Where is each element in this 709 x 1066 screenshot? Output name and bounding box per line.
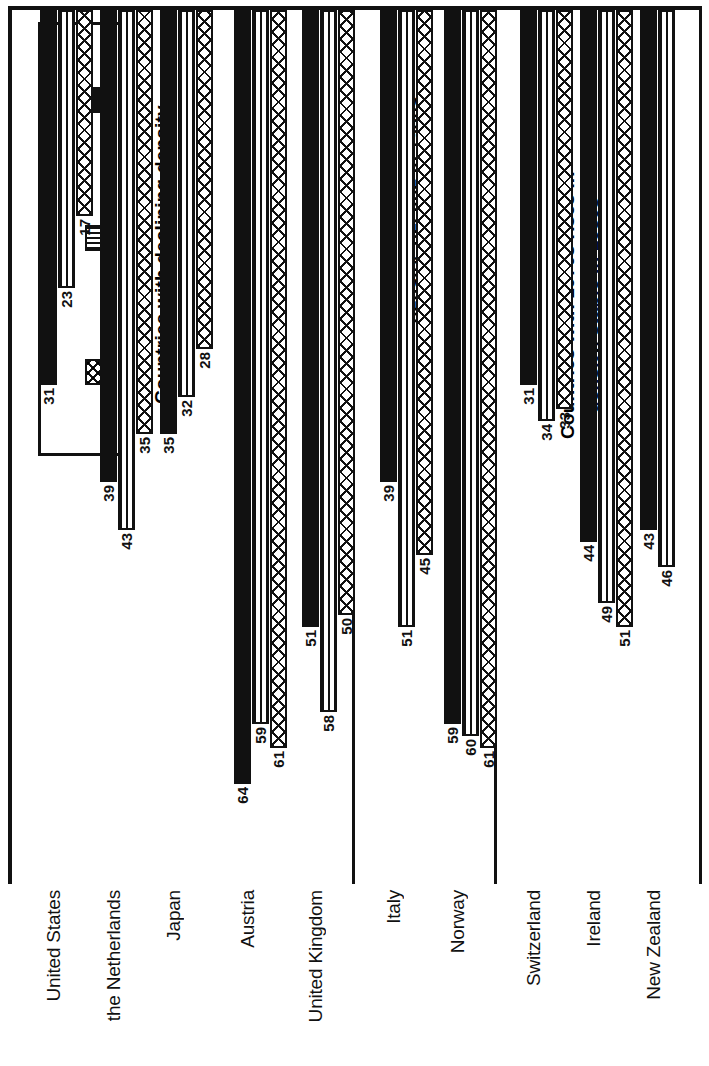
bar-1970 (640, 10, 657, 530)
bar-value-label: 43 (641, 533, 656, 550)
bar-value-label: 59 (445, 727, 460, 744)
bar-1970 (40, 10, 57, 385)
category-label: United States (44, 890, 63, 1001)
bar-1970 (520, 10, 537, 385)
bar-value-label: 45 (417, 558, 432, 575)
bar-value-label: 35 (137, 437, 152, 454)
bar-1979 (538, 10, 555, 421)
bar-value-label: 61 (481, 751, 496, 768)
bar-1986-87 (480, 10, 497, 748)
bar-value-label: 58 (321, 715, 336, 732)
bar-value-label: 61 (271, 751, 286, 768)
bar-value-label: 32 (179, 400, 194, 417)
category-label: Austria (238, 890, 257, 948)
bar-value-label: 51 (617, 630, 632, 647)
bar-value-label: 43 (119, 533, 134, 550)
bar-value-label: 51 (303, 630, 318, 647)
category-label: Switzerland (524, 890, 543, 986)
bar-1979 (398, 10, 415, 627)
bar-1970 (444, 10, 461, 724)
bar-1986-87 (196, 10, 213, 349)
bar-1979 (58, 10, 75, 288)
bar-1986-87 (416, 10, 433, 555)
category-label: Japan (164, 890, 183, 941)
frame-right-rule (699, 6, 702, 884)
bar-1970 (100, 10, 117, 482)
bar-value-label: 17 (77, 219, 92, 236)
bar-1979 (178, 10, 195, 397)
bar-1970 (580, 10, 597, 542)
bar-value-label: 60 (463, 739, 478, 756)
bar-1986-87 (556, 10, 573, 409)
bar-value-label: 23 (59, 291, 74, 308)
bar-value-label: 44 (581, 545, 596, 562)
bar-1970 (302, 10, 319, 627)
bar-value-label: 28 (197, 352, 212, 369)
bar-1979 (598, 10, 615, 603)
figure-bar-chart: 1970 1979 1986/87 Countries with declini… (0, 0, 709, 1066)
bar-1986-87 (338, 10, 355, 615)
bar-1986-87 (136, 10, 153, 434)
bar-1970 (234, 10, 251, 784)
plot-area: 312317United States394335the Netherlands… (12, 10, 699, 884)
bar-value-label: 49 (599, 606, 614, 623)
bar-1979 (462, 10, 479, 736)
bar-value-label: 31 (41, 388, 56, 405)
category-label: Ireland (584, 890, 603, 947)
category-label: the Netherlands (104, 890, 123, 1021)
bar-value-label: 35 (161, 437, 176, 454)
bar-value-label: 64 (235, 787, 250, 804)
bar-1979 (252, 10, 269, 724)
bar-value-label: 33 (557, 412, 572, 429)
bar-value-label: 50 (339, 618, 354, 635)
bar-1970 (380, 10, 397, 482)
category-label: New Zealand (644, 890, 663, 1000)
bar-value-label: 51 (399, 630, 414, 647)
bar-value-label: 39 (381, 485, 396, 502)
bar-1979 (118, 10, 135, 530)
bar-1986-87 (76, 10, 93, 216)
bar-1970 (160, 10, 177, 434)
category-label: United Kingdom (306, 890, 325, 1022)
category-label: Norway (448, 890, 467, 953)
bar-value-label: 39 (101, 485, 116, 502)
bar-value-label: 46 (659, 570, 674, 587)
bar-1986-87 (270, 10, 287, 748)
bar-1986-87 (616, 10, 633, 627)
bar-value-label: 31 (521, 388, 536, 405)
bar-1979 (658, 10, 675, 567)
category-label: Italy (384, 890, 403, 924)
bar-1979 (320, 10, 337, 712)
bar-value-label: 34 (539, 424, 554, 441)
bar-value-label: 59 (253, 727, 268, 744)
